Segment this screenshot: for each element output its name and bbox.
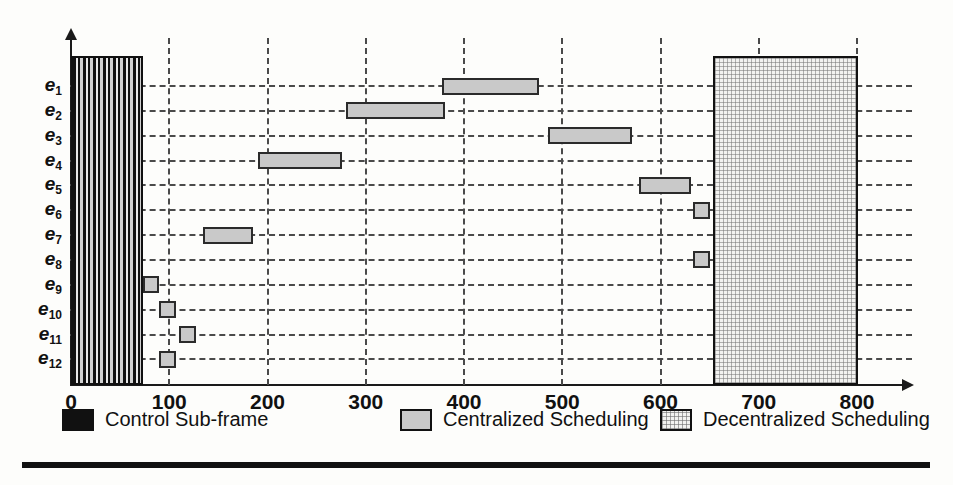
x-axis-arrow-icon [902, 379, 914, 391]
chart-plot-area: e1e2e3e4e5e6e7e8e9e10e11e12 010020030040… [0, 0, 953, 400]
y-tick-label: e12 [38, 347, 62, 369]
task-bar-e10 [159, 301, 176, 318]
task-bar-e2 [346, 102, 445, 119]
figure-root: e1e2e3e4e5e6e7e8e9e10e11e12 010020030040… [0, 0, 953, 485]
y-tick-label: e3 [45, 124, 62, 146]
legend-label-decentralized: Decentralized Scheduling [703, 408, 930, 431]
control-subframe-block [71, 56, 143, 385]
y-tick-e3: e3 [0, 124, 62, 142]
decentralized-scheduling-block [713, 56, 858, 385]
legend-item-decentralized: Decentralized Scheduling [660, 408, 930, 431]
legend-item-centralized: Centralized Scheduling [400, 408, 649, 431]
legend-swatch-centralized [400, 409, 432, 431]
legend-swatch-decentralized [660, 409, 692, 431]
y-axis-arrow-icon [65, 28, 77, 40]
y-tick-e1: e1 [0, 74, 62, 92]
y-tick-e12: e12 [0, 347, 62, 365]
task-bar-e4 [258, 152, 342, 169]
y-tick-e11: e11 [0, 323, 62, 341]
task-bar-e3 [548, 127, 632, 144]
legend-label-control: Control Sub-frame [105, 408, 268, 431]
y-tick-e8: e8 [0, 248, 62, 266]
task-bar-e5 [639, 177, 691, 194]
y-tick-label: e5 [45, 173, 62, 195]
y-tick-e2: e2 [0, 99, 62, 117]
task-bar-e7 [203, 227, 253, 244]
y-tick-label: e8 [45, 248, 62, 270]
y-tick-e5: e5 [0, 173, 62, 191]
y-tick-label: e2 [45, 99, 62, 121]
y-tick-label: e1 [45, 74, 62, 96]
y-tick-label: e6 [45, 198, 62, 220]
task-bar-e1 [442, 78, 538, 95]
task-bar-e12 [159, 351, 176, 368]
task-bar-e9 [143, 276, 160, 293]
task-bar-e6 [693, 202, 710, 219]
y-tick-label: e7 [45, 223, 62, 245]
y-tick-label: e11 [39, 323, 62, 345]
y-tick-e10: e10 [0, 298, 62, 316]
y-tick-label: e10 [38, 298, 62, 320]
y-tick-e4: e4 [0, 149, 62, 167]
bottom-divider-rule [22, 462, 930, 468]
chart-legend: Control Sub-frameCentralized SchedulingD… [0, 408, 953, 448]
legend-swatch-control [62, 409, 94, 431]
y-tick-e7: e7 [0, 223, 62, 241]
legend-label-centralized: Centralized Scheduling [443, 408, 649, 431]
y-tick-e6: e6 [0, 198, 62, 216]
y-tick-label: e9 [45, 273, 62, 295]
y-tick-e9: e9 [0, 273, 62, 291]
task-bar-e8 [693, 251, 710, 268]
y-tick-label: e4 [45, 149, 62, 171]
legend-item-control: Control Sub-frame [62, 408, 268, 431]
task-bar-e11 [179, 326, 196, 343]
